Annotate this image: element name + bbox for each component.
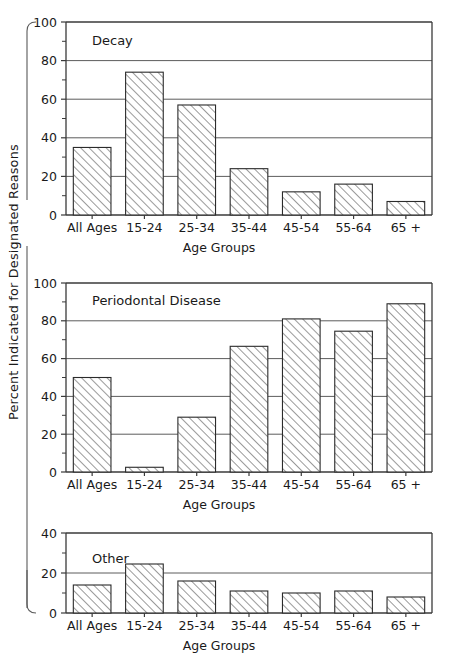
bar-decay-6 [387,201,425,215]
panel-title-periodontal-disease: Periodontal Disease [92,293,221,308]
y-tick-label-80: 80 [41,313,57,328]
bar-periodontal-disease-0 [73,378,111,473]
bar-decay-0 [73,147,111,215]
x-category-label-2: 25-34 [179,618,215,633]
y-tick-label-40: 40 [41,389,57,404]
panel-title-other: Other [92,551,130,566]
x-category-label-0: All Ages [67,618,117,633]
x-category-label-2: 25-34 [179,220,215,235]
bar-periodontal-disease-4 [282,319,320,472]
y-tick-label-20: 20 [41,566,57,581]
x-category-label-1: 15-24 [126,220,162,235]
y-axis-label: Percent Indicated for Designated Reasons [6,144,21,420]
y-tick-label-60: 60 [41,351,57,366]
x-category-label-4: 45-54 [283,477,319,492]
x-category-label-6: 65 + [391,618,421,633]
y-tick-label-80: 80 [41,53,57,68]
x-category-label-1: 15-24 [126,477,162,492]
y-tick-label-0: 0 [49,465,57,480]
x-category-label-2: 25-34 [179,477,215,492]
bar-periodontal-disease-6 [387,304,425,472]
x-category-label-5: 55-64 [335,618,371,633]
bar-other-6 [387,597,425,613]
y-tick-label-60: 60 [41,92,57,107]
y-tick-label-40: 40 [41,130,57,145]
x-axis-label-other: Age Groups [183,638,256,653]
bar-decay-3 [230,169,268,215]
x-category-label-3: 35-44 [231,220,267,235]
bar-other-2 [178,581,216,613]
panel-title-decay: Decay [92,33,133,48]
x-category-label-0: All Ages [67,477,117,492]
x-category-label-0: All Ages [67,220,117,235]
x-category-label-4: 45-54 [283,618,319,633]
x-category-label-3: 35-44 [231,618,267,633]
x-category-label-4: 45-54 [283,220,319,235]
x-category-label-1: 15-24 [126,618,162,633]
y-tick-label-20: 20 [41,169,57,184]
bar-periodontal-disease-3 [230,346,268,472]
y-tick-label-100: 100 [33,15,57,30]
x-axis-label-periodontal-disease: Age Groups [183,497,256,512]
bar-decay-4 [282,192,320,215]
bar-decay-5 [335,184,373,215]
y-tick-label-20: 20 [41,427,57,442]
bar-other-0 [73,585,111,613]
x-category-label-3: 35-44 [231,477,267,492]
bar-periodontal-disease-1 [126,467,164,472]
x-category-label-5: 55-64 [335,477,371,492]
bar-other-4 [282,593,320,613]
x-category-label-6: 65 + [391,477,421,492]
bar-periodontal-disease-5 [335,331,373,472]
x-category-label-5: 55-64 [335,220,371,235]
x-axis-label-decay: Age Groups [183,240,256,255]
y-tick-label-0: 0 [49,606,57,621]
bar-chart-figure: Percent Indicated for Designated Reasons… [0,0,451,660]
bar-other-5 [335,591,373,613]
y-tick-label-0: 0 [49,208,57,223]
x-category-label-6: 65 + [391,220,421,235]
y-axis-label-group: Percent Indicated for Designated Reasons [6,144,21,420]
y-tick-label-100: 100 [33,276,57,291]
y-tick-label-40: 40 [41,526,57,541]
bar-other-1 [126,564,164,613]
bar-periodontal-disease-2 [178,417,216,472]
bar-decay-2 [178,105,216,215]
bar-other-3 [230,591,268,613]
bar-decay-1 [126,72,164,215]
